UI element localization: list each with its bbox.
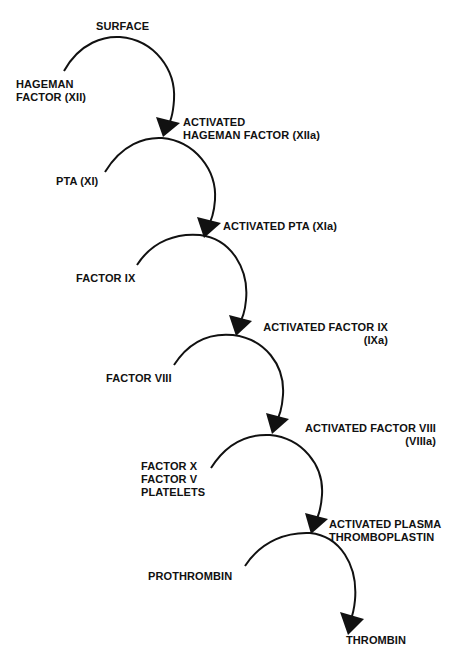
- product-label-activated-plasma-thromboplastin: ACTIVATED PLASMA THROMBOPLASTIN: [329, 518, 441, 544]
- cofactor-label-surface: SURFACE: [96, 20, 149, 33]
- product-label-activated-factor-viii: ACTIVATED FACTOR VIII (VIIIa): [288, 422, 436, 448]
- substrate-label-hageman-factor: HAGEMAN FACTOR (XII): [16, 78, 86, 104]
- product-label-activated-hageman-factor: ACTIVATED HAGEMAN FACTOR (XIIa): [183, 116, 320, 142]
- substrate-label-factor-ix: FACTOR IX: [76, 272, 135, 285]
- arrowhead-5: [305, 513, 328, 534]
- substrate-label-factor-viii: FACTOR VIII: [106, 372, 172, 385]
- arrow-arc-5: [211, 435, 322, 524]
- arrow-arc-3: [137, 235, 246, 326]
- substrate-label-factor-x-v-platelets: FACTOR X FACTOR V PLATELETS: [141, 460, 205, 499]
- arrow-arc-2: [105, 138, 215, 228]
- arrow-arc-6: [245, 533, 355, 622]
- product-label-activated-factor-ix: ACTIVATED FACTOR IX (IXa): [248, 321, 388, 347]
- substrate-label-prothrombin: PROTHROMBIN: [148, 570, 232, 583]
- product-label-activated-pta: ACTIVATED PTA (XIa): [223, 220, 337, 233]
- substrate-label-pta: PTA (XI): [56, 175, 98, 188]
- product-label-thrombin: THROMBIN: [346, 634, 406, 647]
- coagulation-cascade-diagram: SURFACE HAGEMAN FACTOR (XII) ACTIVATED H…: [0, 0, 469, 659]
- arrowhead-4: [266, 413, 289, 434]
- arrowhead-1: [156, 117, 180, 137]
- arrow-arc-4: [174, 335, 283, 424]
